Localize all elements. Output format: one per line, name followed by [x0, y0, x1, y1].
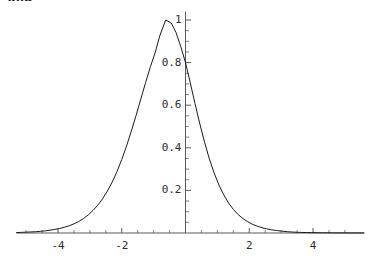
data-curve	[17, 20, 364, 233]
y-tick-label: 0.6	[128, 98, 182, 111]
y-tick-label: 0.8	[128, 56, 182, 69]
x-tick-label: -4	[38, 239, 78, 252]
y-tick-label: 1	[128, 13, 182, 26]
y-tick-label: 0.2	[128, 183, 182, 196]
y-axis-group	[186, 11, 192, 233]
x-tick-label: 2	[229, 239, 269, 252]
y-axis-major-ticks	[186, 20, 191, 190]
x-tick-label: 4	[293, 239, 333, 252]
chart-canvas: and -4-224 0.20.40.60.81	[0, 0, 368, 264]
plot-area	[0, 0, 368, 264]
x-tick-label: -2	[102, 239, 142, 252]
y-axis-minor-ticks	[186, 31, 189, 223]
y-tick-label: 0.4	[128, 141, 182, 154]
